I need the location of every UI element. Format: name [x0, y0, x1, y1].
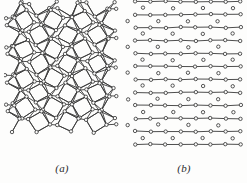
panel-b-lattice-diagram — [124, 0, 244, 156]
snub-square-lattice-svg — [4, 0, 120, 156]
panel-a-caption: (a) — [4, 162, 120, 174]
panel-b-caption: (b) — [124, 162, 244, 174]
panel-a-lattice-diagram — [4, 0, 120, 156]
kagome-lattice-svg — [124, 0, 244, 156]
figure-root: (a) (b) — [0, 0, 247, 183]
